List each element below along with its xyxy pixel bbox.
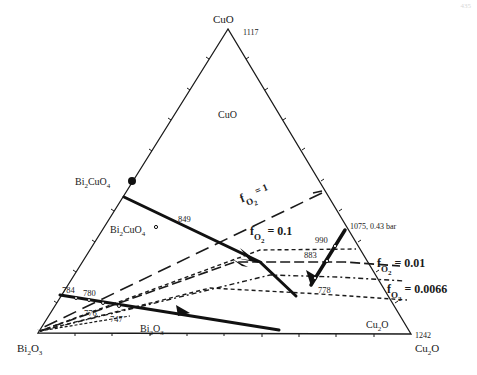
point-label-bi2cuo4: Bi2CuO4 [75,176,111,190]
vertex-temp-cu2o: 1242 [415,331,431,340]
temp-label-778: 778 [318,285,331,295]
temp-label-990: 990 [315,235,328,245]
isobar-label-fo2-1: fO2= 1 [238,181,273,212]
ternary-diagram: CuO 1117 Bi2O3 1242 Cu2O CuO Bi2CuO4 Bi2… [0,0,477,375]
isobar-end-mark [313,191,322,193]
tick-marks [54,57,398,337]
temp-label-784: 784 [62,285,76,295]
isobar-label-fo2-0.1: fO2= 0.1 [250,224,292,245]
field-label-bi2o3: Bi2O3 [140,323,164,337]
vertex-label-bi2o3: Bi2O3 [17,342,43,357]
isobar-label-fo2-0.0066: fO2= 0.0066 [387,282,447,303]
arrow-heads [176,248,316,316]
temp-label-776: 776 [84,308,97,318]
phase-boundaries [60,197,345,330]
vertex-temp-cuo: 1117 [243,28,258,37]
temp-label-780: 780 [83,288,96,298]
field-label-bi2cuo4: Bi2CuO4 [110,224,146,238]
bi2cuo4-point-marker [128,177,136,185]
field-label-cuo: CuO [218,109,237,120]
field-label-cu2o: Cu2O [366,319,388,333]
temp-label-1075: 1075, 0.43 bar [350,222,397,231]
vertex-label-cu2o: Cu2O [415,342,439,357]
svg-text:fO2= 1: fO2= 1 [238,181,273,212]
invariant-points [75,225,337,307]
vertex-label-cuo: CuO [213,13,234,25]
temp-label-849: 849 [178,214,191,224]
isobar-label-fo2-0.01: fO2= 0.01 [377,256,425,277]
temp-label-883: 883 [304,250,317,260]
temp-label-747: 747 [110,314,123,324]
